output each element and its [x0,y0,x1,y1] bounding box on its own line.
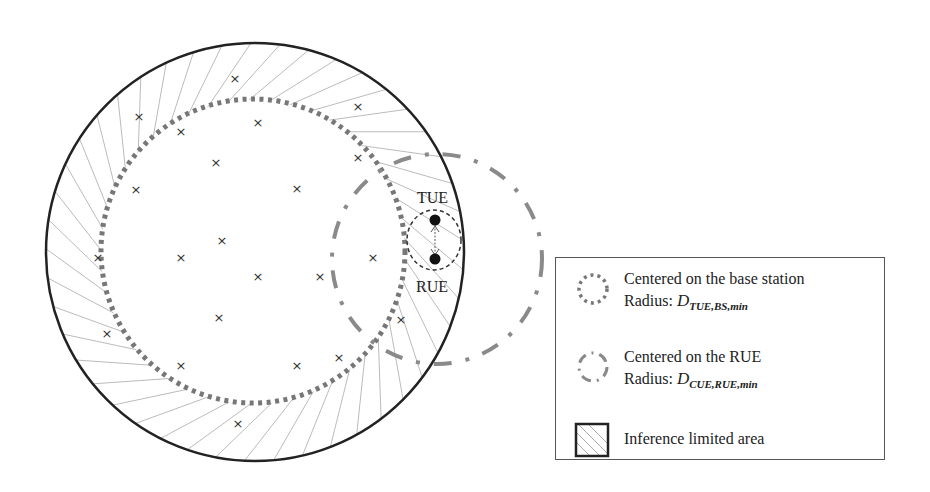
dotted-circle-icon [576,272,616,312]
ue-marker: × [396,312,407,327]
ue-marker: × [102,326,113,341]
ue-marker: × [230,71,241,86]
ue-marker: × [176,358,187,373]
legend: Centered on the base station Radius: DTU… [555,257,885,460]
dash-dot-circle-icon [576,350,616,390]
ue-marker: × [353,99,364,114]
ue-marker: × [253,269,264,284]
bs-min-distance-circle [101,99,405,403]
d2d-link-arrow [431,225,439,255]
ue-marker: × [176,124,187,139]
ue-marker: × [292,181,303,196]
legend-radius-bs: Radius: DTUE,BS,min [624,290,804,317]
ue-marker: × [217,233,228,248]
legend-radius-rue: Radius: DCUE,RUE,min [624,368,761,395]
ue-marker: × [131,182,142,197]
ue-marker: × [353,150,364,165]
legend-label-hatched: Inference limited area [624,428,764,450]
ue-marker: × [233,416,244,431]
rue-node [430,254,441,265]
legend-label-bs: Centered on the base station [624,268,804,290]
tue-node [430,215,441,226]
math-symbol: DTUE,BS,min [677,291,748,310]
legend-label-rue: Centered on the RUE [624,346,761,368]
math-symbol: DCUE,RUE,min [677,369,758,388]
ue-marker: × [211,155,222,170]
ue-marker: × [334,350,345,365]
ue-marker: × [134,109,145,124]
ue-marker: × [93,250,104,265]
tue-label: TUE [417,190,448,206]
ue-marker: × [368,250,379,265]
ue-marker: × [292,358,303,373]
rue-label: RUE [416,279,448,295]
ue-marker: × [214,310,225,325]
hatched-square-icon [574,422,614,462]
ue-marker: × [253,115,264,130]
cell-boundary-circle [46,43,464,461]
ue-marker: × [315,269,326,284]
ue-marker: × [176,250,187,265]
